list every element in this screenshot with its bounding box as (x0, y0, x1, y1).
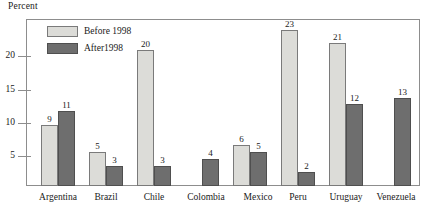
bar-value-label: 6 (239, 134, 244, 145)
bar-value-label: 23 (285, 19, 294, 30)
bar-chile-after: 3 (154, 166, 171, 186)
bar-value-label: 21 (333, 32, 342, 43)
y-tick-label: 20 (6, 49, 16, 62)
y-tick-label: 10 (6, 116, 16, 129)
bar-mexico-before: 6 (233, 145, 250, 186)
bar-value-label: 9 (47, 114, 52, 125)
y-tick-mark (18, 56, 26, 57)
x-label-brazil: Brazil (94, 191, 117, 204)
bar-value-label: 4 (208, 148, 213, 159)
y-tick-label: 5 (10, 149, 15, 162)
bar-value-label: 5 (256, 141, 261, 152)
plot-area: 9 11 5 3 20 3 4 6 5 23 (27, 20, 419, 186)
bar-brazil-after: 3 (106, 166, 123, 186)
bar-value-label: 2 (304, 161, 309, 172)
bar-argentina-after: 11 (58, 111, 75, 186)
bar-chart: Percent 20 15 10 5 Before 1998 After1998 (0, 0, 433, 218)
bar-mexico-after: 5 (250, 152, 267, 186)
x-label-peru: Peru (289, 191, 306, 204)
bar-venezuela-after: 13 (394, 98, 411, 186)
y-tick-mark (18, 156, 26, 157)
x-label-colombia: Colombia (187, 191, 224, 204)
bar-peru-before: 23 (281, 30, 298, 186)
y-axis-title: Percent (8, 1, 38, 11)
bar-uruguay-before: 21 (329, 43, 346, 186)
x-label-argentina: Argentina (39, 191, 77, 204)
y-tick-label: 15 (6, 83, 16, 96)
bar-colombia-after: 4 (202, 159, 219, 186)
bar-value-label: 12 (350, 93, 359, 104)
bar-peru-after: 2 (298, 172, 315, 186)
x-label-uruguay: Uruguay (329, 191, 362, 204)
y-tick-mark (18, 90, 26, 91)
bar-value-label: 13 (398, 87, 407, 98)
bar-argentina-before: 9 (41, 125, 58, 186)
bar-chile-before: 20 (137, 50, 154, 186)
x-label-venezuela: Venezuela (376, 191, 415, 204)
bar-value-label: 11 (62, 100, 71, 111)
x-label-chile: Chile (144, 191, 165, 204)
y-tick-mark (18, 123, 26, 124)
bar-value-label: 3 (112, 155, 117, 166)
bar-uruguay-after: 12 (346, 104, 363, 186)
bar-value-label: 5 (95, 141, 100, 152)
bar-brazil-before: 5 (89, 152, 106, 186)
bar-value-label: 20 (141, 39, 150, 50)
bar-value-label: 3 (160, 155, 165, 166)
x-label-mexico: Mexico (243, 191, 272, 204)
